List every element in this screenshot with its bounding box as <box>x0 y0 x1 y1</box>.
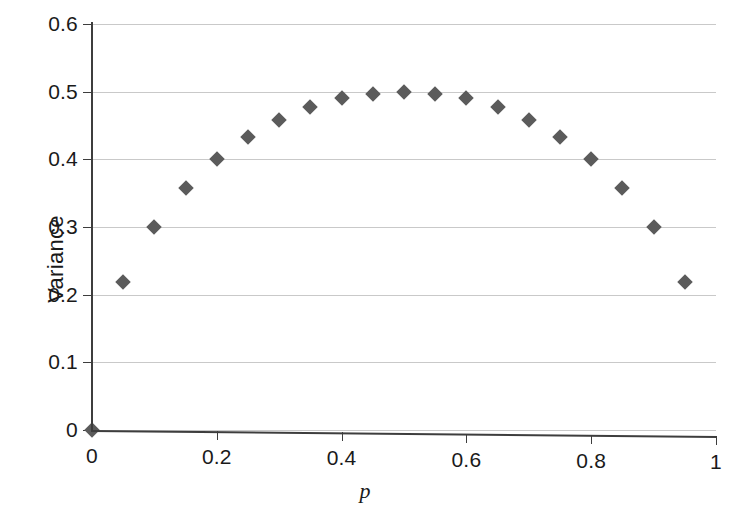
plot-area: 00.10.20.30.40.50.600.20.40.60.81 <box>92 24 716 430</box>
data-point-marker <box>583 152 599 168</box>
data-point-marker <box>365 86 381 102</box>
gridline-y <box>92 295 716 296</box>
data-point-marker <box>271 112 287 128</box>
x-axis-line <box>91 430 717 438</box>
data-point-marker <box>552 129 568 145</box>
x-axis-tick-label: 1 <box>710 450 722 474</box>
data-point-marker <box>427 86 443 102</box>
x-axis-tick-label: 0.6 <box>451 448 481 472</box>
data-point-marker <box>303 99 319 115</box>
gridline-y <box>92 24 716 25</box>
data-point-marker <box>646 219 662 235</box>
data-point-marker <box>459 91 475 107</box>
y-axis-tick-label: 0.5 <box>48 80 78 104</box>
data-point-marker <box>677 275 693 291</box>
data-point-marker <box>147 219 163 235</box>
gridline-y <box>92 159 716 160</box>
data-point-marker <box>490 99 506 115</box>
chart-figure: 00.10.20.30.40.50.600.20.40.60.81 Varian… <box>0 0 730 518</box>
x-axis-tick-label: 0.4 <box>327 446 357 470</box>
data-point-marker <box>240 129 256 145</box>
y-axis-tick-label: 0 <box>66 418 78 442</box>
gridline-y <box>92 227 716 228</box>
x-axis-tick-label: 0.8 <box>576 449 606 473</box>
caption-stub <box>8 500 218 512</box>
data-point-marker <box>396 84 412 100</box>
y-axis-tick-label: 0.4 <box>48 147 78 171</box>
data-point-marker <box>334 91 350 107</box>
y-axis-line <box>91 22 93 432</box>
data-point-marker <box>115 275 131 291</box>
data-point-marker <box>209 152 225 168</box>
data-point-marker <box>615 181 631 197</box>
y-axis-tick-label: 0.6 <box>48 12 78 36</box>
data-point-marker <box>178 181 194 197</box>
gridline-y <box>92 362 716 363</box>
x-axis-tick-label: 0.2 <box>202 445 232 469</box>
x-axis-tick-label: 0 <box>86 444 98 468</box>
data-point-marker <box>521 112 537 128</box>
y-axis-title: Variance <box>43 215 69 303</box>
y-axis-tick-label: 0.1 <box>48 350 78 374</box>
